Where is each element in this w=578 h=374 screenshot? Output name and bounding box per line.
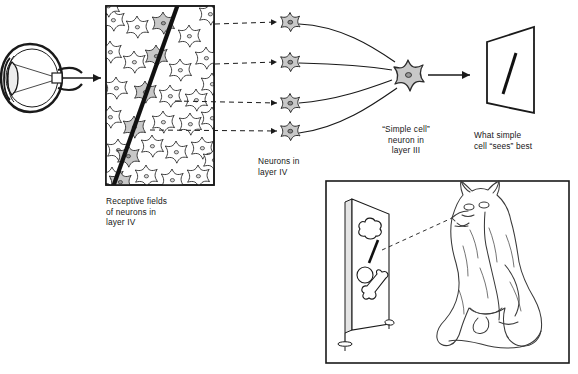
blob-cloud [359, 218, 381, 239]
simple-cell-neuron [394, 60, 424, 91]
simple-cell-diagram: Receptive fields of neurons in layer IV … [0, 0, 578, 374]
preferred-stimulus-screen [487, 27, 534, 113]
diagram-graphics [0, 0, 578, 374]
eye-diagram [1, 44, 101, 112]
caption-simple-cell: “Simple cell” neuron in layer III [352, 124, 460, 156]
cat-scene-panel [326, 181, 569, 363]
cortex-panel [97, 0, 225, 193]
blob-circle [357, 267, 373, 283]
caption-receptive-fields: Receptive fields of neurons in layer IV [106, 196, 226, 228]
convergent-axons [299, 24, 397, 133]
layer4-neurons [281, 13, 300, 141]
caption-what-simple-cell-sees-best: What simple cell “sees” best [474, 130, 578, 151]
caption-neurons-layer-four: Neurons in layer IV [258, 156, 344, 177]
